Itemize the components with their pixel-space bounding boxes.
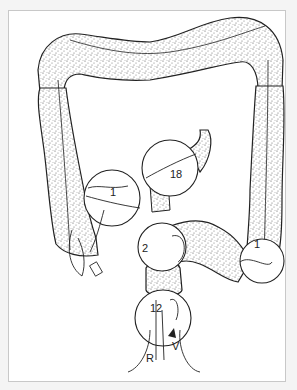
label-descending: 1 <box>254 238 260 250</box>
ascending-colon <box>38 88 98 256</box>
label-rectosigmoid: 12 <box>150 302 162 314</box>
label-sigmoid: 2 <box>142 242 148 254</box>
circle-descending <box>240 239 284 283</box>
colon-diagram: 1 18 2 1 12 R V <box>0 0 297 390</box>
label-vagina: V <box>172 340 180 352</box>
label-cecum: 1 <box>110 186 116 198</box>
transverse-colon <box>38 17 283 92</box>
label-hepatic: 18 <box>170 168 182 180</box>
clip-marker <box>90 262 103 276</box>
label-rectum: R <box>146 352 154 364</box>
